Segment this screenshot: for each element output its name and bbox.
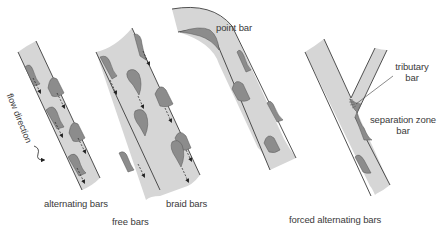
tributary-bar-label-line1: tributary — [392, 61, 432, 72]
braid-bars-label: braid bars — [166, 198, 207, 209]
braid-bars-channel — [96, 28, 200, 200]
separation-zone-bar-label: separation zone bar — [366, 114, 440, 136]
alternating-bars-label: alternating bars — [44, 198, 108, 209]
river-bars-diagram: flow direction alternating bars braid ba… — [0, 0, 440, 239]
free-bars-label: free bars — [112, 216, 149, 227]
tributary-bar-label-line2: bar — [392, 72, 432, 83]
separation-zone-bar-label-line2: bar — [366, 125, 440, 136]
separation-zone-bar-label-line1: separation zone — [366, 114, 440, 125]
tributary-bar-label: tributary bar — [392, 61, 432, 83]
forced-alternating-bars-label: forced alternating bars — [289, 214, 381, 225]
alternating-bars-channel — [18, 41, 100, 190]
point-bar-label: point bar — [216, 22, 252, 33]
flow-arrow-icon — [34, 146, 43, 160]
